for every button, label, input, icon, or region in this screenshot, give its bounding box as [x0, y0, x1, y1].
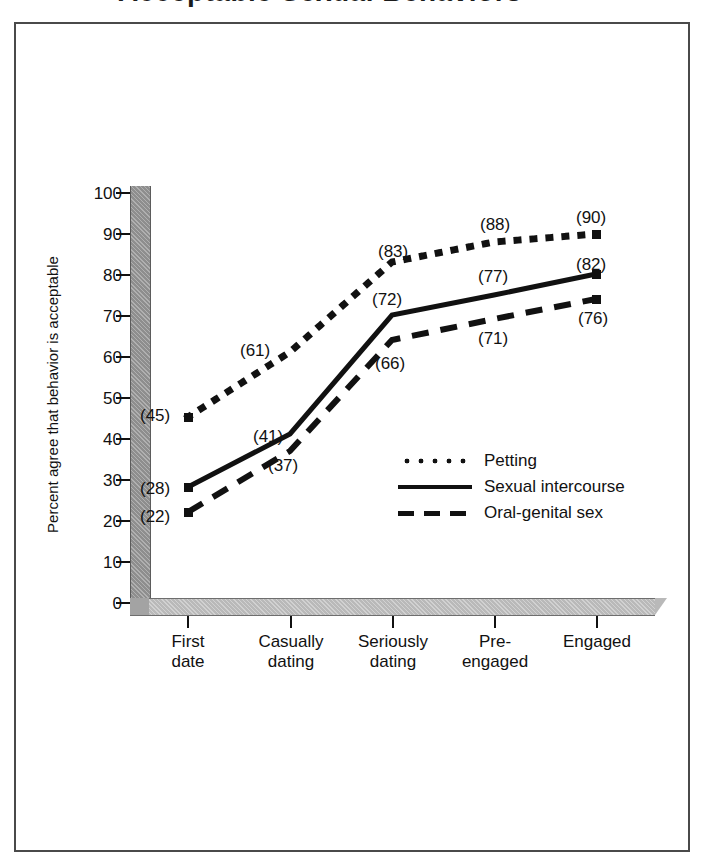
value-label-oral-4: (76) — [578, 310, 608, 327]
legend-item-petting: Petting — [398, 448, 648, 474]
y-tick-mark-20 — [116, 520, 130, 522]
value-label-intercourse-3: (77) — [478, 268, 508, 285]
x-axis-band — [130, 598, 655, 616]
legend-item-oral-genital-sex: Oral-genital sex — [398, 500, 648, 526]
legend-swatch-dashed-icon — [398, 506, 472, 520]
value-label-intercourse-4: (82) — [576, 256, 606, 273]
value-label-petting-2: (83) — [378, 243, 408, 260]
x-tick-label-line1: Engaged — [532, 632, 662, 652]
series-line-petting — [188, 234, 596, 417]
value-label-intercourse-0: (28) — [140, 480, 170, 497]
line-chart: Percent agree that behavior is acceptabl… — [0, 0, 706, 863]
series-marker — [184, 508, 193, 517]
series-marker — [184, 413, 193, 422]
x-tick-mark-3 — [494, 616, 496, 628]
x-axis-bevel — [655, 598, 667, 615]
legend-label-petting: Petting — [484, 451, 537, 471]
value-label-oral-1: (37) — [268, 457, 298, 474]
legend-label-oral-genital-sex: Oral-genital sex — [484, 503, 603, 523]
y-tick-mark-0 — [116, 602, 130, 604]
series-marker — [592, 230, 601, 239]
x-tick-mark-1 — [290, 616, 292, 628]
y-axis-bar — [130, 186, 151, 598]
y-tick-mark-80 — [116, 274, 130, 276]
value-label-petting-4: (90) — [576, 209, 606, 226]
legend-item-sexual-intercourse: Sexual intercourse — [398, 474, 648, 500]
series-marker — [184, 483, 193, 492]
x-tick-label-engaged: Engaged — [532, 632, 662, 652]
value-label-petting-0: (45) — [140, 407, 170, 424]
x-tick-mark-4 — [596, 616, 598, 628]
y-tick-mark-70 — [116, 315, 130, 317]
legend-swatch-solid-icon — [398, 480, 472, 494]
y-tick-mark-100 — [116, 192, 130, 194]
series-marker — [592, 295, 601, 304]
axis-corner — [130, 598, 149, 615]
legend-label-sexual-intercourse: Sexual intercourse — [484, 477, 625, 497]
y-tick-mark-10 — [116, 561, 130, 563]
value-label-intercourse-1: (41) — [253, 428, 283, 445]
value-label-petting-3: (88) — [480, 216, 510, 233]
x-tick-mark-0 — [187, 616, 189, 628]
y-tick-mark-30 — [116, 479, 130, 481]
x-tick-mark-2 — [392, 616, 394, 628]
y-tick-mark-50 — [116, 397, 130, 399]
value-label-oral-3: (71) — [478, 330, 508, 347]
y-axis-title: Percent agree that behavior is acceptabl… — [44, 245, 61, 545]
x-tick-label-line2: engaged — [430, 652, 560, 672]
value-label-petting-1: (61) — [240, 342, 270, 359]
y-tick-mark-90 — [116, 233, 130, 235]
y-tick-mark-40 — [116, 438, 130, 440]
y-tick-mark-60 — [116, 356, 130, 358]
legend: Petting Sexual intercourse Oral-genital … — [398, 448, 648, 526]
value-label-oral-2: (66) — [375, 355, 405, 372]
value-label-oral-0: (22) — [140, 508, 170, 525]
legend-swatch-dotted-icon — [398, 454, 472, 468]
value-label-intercourse-2: (72) — [372, 291, 402, 308]
